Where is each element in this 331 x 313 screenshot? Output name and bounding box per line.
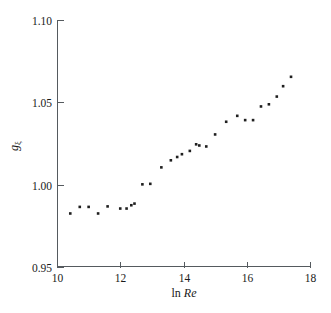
y-tick-label: 1.05	[32, 97, 52, 109]
data-point	[106, 205, 109, 208]
data-point	[97, 212, 100, 215]
x-axis-title-prefix: ln	[172, 286, 184, 300]
data-point	[252, 119, 255, 122]
data-point	[125, 207, 128, 210]
data-point	[198, 144, 201, 147]
y-tick-label: 1.00	[32, 180, 52, 192]
data-points-layer	[69, 76, 292, 215]
y-axis-title: gξ	[7, 141, 23, 151]
y-tick-label: 1.10	[32, 15, 52, 27]
data-point	[160, 166, 163, 169]
plot-canvas: 0.951.001.051.10 1012141618 gξ ln Re	[0, 0, 331, 313]
data-point	[268, 103, 271, 106]
x-tick-labels: 1012141618	[52, 272, 317, 284]
x-tick-label: 10	[52, 272, 64, 284]
x-tick-label: 18	[305, 272, 317, 284]
data-point	[195, 143, 198, 146]
y-tick-labels: 0.951.001.051.10	[32, 15, 52, 274]
data-point	[176, 156, 179, 159]
axes-frame	[57, 20, 310, 267]
x-axis-title-italic: Re	[183, 286, 197, 300]
data-point	[205, 145, 208, 148]
data-point	[170, 159, 173, 162]
data-point	[236, 115, 239, 118]
data-point	[78, 206, 81, 209]
data-point	[87, 206, 90, 209]
data-point	[275, 95, 278, 98]
data-point	[260, 105, 263, 108]
data-point	[290, 76, 293, 79]
data-point	[69, 212, 72, 215]
data-point	[119, 207, 122, 210]
data-point	[181, 153, 184, 156]
scatter-chart-figure: 0.951.001.051.10 1012141618 gξ ln Re	[0, 0, 331, 313]
data-point	[189, 150, 192, 153]
y-tick-label: 0.95	[32, 262, 52, 274]
y-tick-marks	[58, 21, 64, 268]
data-point	[133, 202, 136, 205]
data-point	[244, 119, 247, 122]
data-point	[141, 183, 144, 186]
x-tick-label: 12	[115, 272, 127, 284]
svg-text:gξ: gξ	[7, 141, 23, 151]
data-point	[130, 204, 133, 207]
data-point	[225, 120, 228, 123]
y-axis-title-subscript: ξ	[13, 141, 23, 145]
x-tick-label: 16	[242, 272, 254, 284]
data-point	[214, 133, 217, 136]
svg-text:ln Re: ln Re	[172, 286, 198, 300]
x-tick-label: 14	[179, 272, 191, 284]
data-point	[149, 183, 152, 186]
data-point	[282, 85, 285, 88]
x-axis-title: ln Re	[172, 286, 198, 300]
